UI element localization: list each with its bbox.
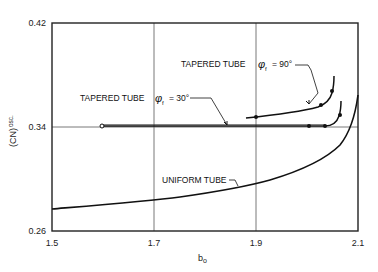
data-point	[307, 124, 311, 128]
annotation-tapered-30: TAPERED TUBE φ f = 30°	[80, 92, 227, 125]
x-tick-1.7: 1.7	[148, 238, 161, 248]
x-tick-1.9: 1.9	[250, 238, 263, 248]
data-point	[338, 113, 342, 117]
data-point	[323, 124, 327, 128]
y-tick-labels: 0.42 0.34 0.26	[28, 18, 46, 236]
x-tick-1.5: 1.5	[46, 238, 59, 248]
svg-text:UNIFORM TUBE: UNIFORM TUBE	[162, 175, 227, 185]
svg-text:f: f	[265, 66, 267, 72]
grid	[52, 23, 358, 231]
svg-text:osc.: osc.	[7, 115, 14, 127]
x-tick-labels: 1.5 1.7 1.9 2.1	[46, 238, 365, 248]
svg-text:TAPERED TUBE: TAPERED TUBE	[80, 93, 145, 103]
data-point	[319, 103, 323, 107]
x-axis-label: b o	[198, 253, 207, 264]
svg-text:= 30°: = 30°	[169, 93, 189, 103]
svg-text:TAPERED TUBE: TAPERED TUBE	[181, 59, 246, 69]
series-uniform-tube	[52, 95, 358, 209]
annotation-tapered-90: TAPERED TUBE φ f = 90°	[181, 58, 318, 104]
svg-text:f: f	[162, 100, 164, 106]
y-tick-0.34: 0.34	[28, 122, 46, 132]
svg-text:= 90°: = 90°	[272, 59, 292, 69]
y-axis-label: (CN) osc.	[7, 115, 18, 147]
data-point	[100, 124, 104, 128]
data-point	[254, 115, 258, 119]
data-point	[330, 89, 334, 93]
x-tick-2.1: 2.1	[352, 238, 365, 248]
svg-text:(CN): (CN)	[8, 128, 18, 147]
y-tick-0.26: 0.26	[28, 226, 46, 236]
chart-canvas: 0.42 0.34 0.26 1.5 1.7 1.9 2.1 b o (CN) …	[0, 0, 378, 272]
annotation-uniform-tube: UNIFORM TUBE	[162, 175, 238, 186]
y-tick-0.42: 0.42	[28, 18, 46, 28]
series-tapered-90	[246, 76, 334, 119]
svg-text:o: o	[203, 257, 207, 264]
